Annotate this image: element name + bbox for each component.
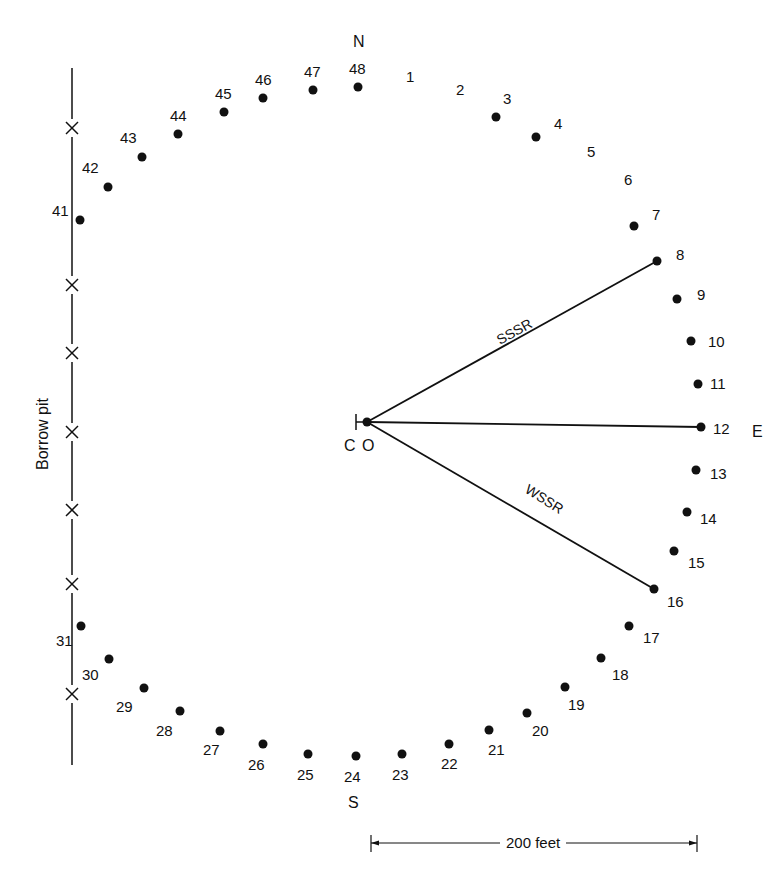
station-label: 43 xyxy=(120,129,137,146)
station-label: 28 xyxy=(156,722,173,739)
south-label: S xyxy=(348,794,359,811)
station-label: 17 xyxy=(643,629,660,646)
station-11: 11 xyxy=(694,375,726,392)
station-20: 20 xyxy=(523,709,549,740)
station-label: 41 xyxy=(52,202,69,219)
station-9: 9 xyxy=(673,286,706,304)
station-dot xyxy=(104,183,113,192)
wssr-label: WSSR xyxy=(522,481,566,517)
x-mark-icon xyxy=(66,347,78,359)
station-24: 24 xyxy=(344,752,361,786)
station-dot xyxy=(597,654,606,663)
station-3: 3 xyxy=(492,90,512,122)
station-label: 45 xyxy=(215,85,232,102)
station-dot xyxy=(216,727,225,736)
borrow-pit-label: Borrow pit xyxy=(34,397,51,470)
station-21: 21 xyxy=(485,726,505,759)
station-label: 20 xyxy=(532,722,549,739)
station-dot xyxy=(105,655,114,664)
station-dot xyxy=(653,257,662,266)
station-label: 12 xyxy=(713,420,730,437)
station-label: 9 xyxy=(697,286,705,303)
station-dot xyxy=(625,622,634,631)
station-dot xyxy=(532,133,541,142)
station-14: 14 xyxy=(683,508,717,528)
station-dot xyxy=(220,108,229,117)
station-dot xyxy=(352,752,361,761)
ray-to-station-16 xyxy=(367,422,654,589)
station-8: 8 xyxy=(653,246,685,266)
station-dot xyxy=(523,709,532,718)
station-dot xyxy=(492,113,501,122)
center-point-o xyxy=(363,418,372,427)
x-mark-icon xyxy=(66,426,78,438)
station-23: 23 xyxy=(392,750,409,784)
x-mark-icon xyxy=(66,504,78,516)
station-42: 42 xyxy=(82,159,113,192)
station-label: 10 xyxy=(708,333,725,350)
station-label: 46 xyxy=(255,71,272,88)
station-dot xyxy=(309,86,318,95)
station-dot xyxy=(445,740,454,749)
station-47: 47 xyxy=(304,63,321,95)
station-6: 6 xyxy=(624,171,632,188)
ray-to-station-12 xyxy=(367,422,701,427)
station-5: 5 xyxy=(587,143,595,160)
station-dot xyxy=(485,726,494,735)
station-dot xyxy=(398,750,407,759)
station-13: 13 xyxy=(692,465,727,482)
station-label: 18 xyxy=(612,666,629,683)
station-label: 25 xyxy=(297,766,314,783)
station-label: 21 xyxy=(488,741,505,758)
station-29: 29 xyxy=(116,684,149,716)
station-26: 26 xyxy=(248,740,268,774)
station-label: 5 xyxy=(587,143,595,160)
scale-bar: 200 feet xyxy=(371,834,697,852)
station-dot xyxy=(670,547,679,556)
station-46: 46 xyxy=(255,71,272,103)
station-label: 29 xyxy=(116,698,133,715)
station-10: 10 xyxy=(687,333,725,350)
station-dot xyxy=(259,94,268,103)
station-16: 16 xyxy=(650,585,684,611)
station-label: 6 xyxy=(624,171,632,188)
station-label: 48 xyxy=(349,60,366,77)
station-1: 1 xyxy=(406,68,414,85)
station-4: 4 xyxy=(532,115,563,142)
station-dot xyxy=(694,380,703,389)
site-plan-diagram: N E S Borrow pit SSSR WSSR C O 123456789… xyxy=(0,0,784,878)
station-30: 30 xyxy=(82,655,114,684)
x-mark-icon xyxy=(66,688,78,700)
center-o-label: O xyxy=(362,437,374,454)
station-dot xyxy=(354,83,363,92)
station-dot xyxy=(650,585,659,594)
station-label: 44 xyxy=(170,107,187,124)
station-dot xyxy=(174,130,183,139)
center-c-label: C xyxy=(344,437,356,454)
station-25: 25 xyxy=(297,750,314,784)
station-dot xyxy=(176,707,185,716)
station-15: 15 xyxy=(670,547,705,572)
station-label: 26 xyxy=(248,756,265,773)
station-label: 8 xyxy=(676,246,684,263)
station-label: 3 xyxy=(503,90,511,107)
station-label: 4 xyxy=(554,115,562,132)
sssr-label: SSSR xyxy=(494,315,535,347)
station-label: 42 xyxy=(82,159,99,176)
x-mark-icon xyxy=(66,279,78,291)
x-mark-icon xyxy=(66,578,78,590)
north-label: N xyxy=(353,33,365,50)
station-dot xyxy=(77,622,86,631)
station-7: 7 xyxy=(630,206,661,231)
station-dot xyxy=(683,508,692,517)
station-dot xyxy=(304,750,313,759)
east-label: E xyxy=(752,423,763,440)
station-label: 24 xyxy=(344,768,361,785)
scale-bar-label: 200 feet xyxy=(506,834,561,851)
station-28: 28 xyxy=(156,707,185,740)
station-45: 45 xyxy=(215,85,232,117)
x-mark-icon xyxy=(66,122,78,134)
station-label: 47 xyxy=(304,63,321,80)
station-22: 22 xyxy=(441,740,458,773)
station-dot xyxy=(673,295,682,304)
